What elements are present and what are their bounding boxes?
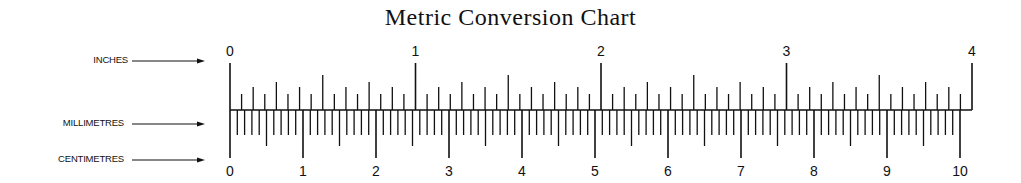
cm-label: 10 [952, 163, 968, 179]
inch-label: 2 [597, 43, 605, 59]
ruler-diagram: 01234 012345678910 [0, 0, 1021, 183]
row-arrows [132, 59, 205, 163]
arrow-head-icon [197, 59, 205, 64]
cm-label: 2 [372, 163, 380, 179]
cm-label: 1 [299, 163, 307, 179]
inch-label: 4 [968, 43, 976, 59]
cm-label: 9 [883, 163, 891, 179]
cm-label: 3 [445, 163, 453, 179]
cm-label: 0 [226, 163, 234, 179]
millimetre-tick-marks [230, 110, 960, 158]
inch-tick-labels: 01234 [226, 43, 976, 59]
arrow-head-icon [197, 158, 205, 163]
cm-label: 8 [810, 163, 818, 179]
inch-label: 0 [226, 43, 234, 59]
centimetre-tick-labels: 012345678910 [226, 163, 968, 179]
cm-label: 4 [518, 163, 526, 179]
inch-label: 1 [412, 43, 420, 59]
cm-label: 5 [591, 163, 599, 179]
cm-label: 6 [664, 163, 672, 179]
arrow-head-icon [197, 122, 205, 127]
inch-tick-marks [230, 63, 972, 110]
inch-label: 3 [783, 43, 791, 59]
cm-label: 7 [737, 163, 745, 179]
